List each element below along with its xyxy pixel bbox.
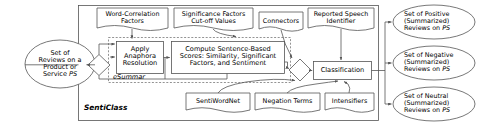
process-scores-box [172,42,285,74]
output-positive-ellipse [393,5,475,39]
process-classification-box [314,62,372,80]
process-anaphora-box [117,42,164,74]
output-neutral-ellipse [393,87,475,121]
output-negative-ellipse [393,46,475,80]
diagram-vector-layer [0,0,479,126]
diagram-canvas: SentiClass eSummar Set ofReviews on aPro… [0,0,479,126]
input-ellipse [25,40,95,88]
